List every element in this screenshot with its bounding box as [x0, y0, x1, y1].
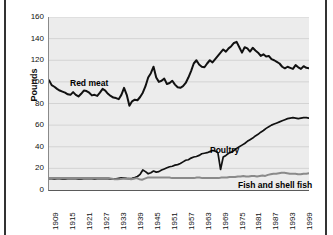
- x-tick-label: 1945: [154, 212, 162, 230]
- page-root: Pounds 020406080100120140160 19091915192…: [0, 0, 333, 235]
- x-tick-label: 1933: [120, 212, 128, 230]
- x-tick-label: 1975: [239, 212, 247, 230]
- y-axis-tick-labels: 020406080100120140160: [14, 4, 44, 194]
- y-tick-label: 80: [18, 100, 44, 108]
- x-tick-label: 1951: [171, 212, 179, 230]
- series-line-fish-and-shell-fish: [49, 173, 309, 180]
- series-line-poultry: [49, 118, 309, 179]
- x-tick-label: 1987: [272, 212, 280, 230]
- plot-svg: [49, 17, 309, 190]
- meat-consumption-line-chart: Pounds 020406080100120140160 19091915192…: [10, 4, 322, 232]
- x-tick-label: 1993: [289, 212, 297, 230]
- y-tick-label: 140: [18, 35, 44, 43]
- y-tick-label: 60: [18, 121, 44, 129]
- x-tick-label: 1939: [137, 212, 145, 230]
- plot-area: [48, 17, 309, 191]
- x-axis-tick-labels: 1909191519211927193319391945195119571963…: [48, 192, 310, 234]
- y-tick-label: 20: [18, 164, 44, 172]
- y-tick-label: 120: [18, 56, 44, 64]
- document-right-rule: [325, 0, 327, 235]
- y-tick-label: 100: [18, 78, 44, 86]
- y-tick-label: 0: [18, 186, 44, 194]
- series-label-fish-and-shell-fish: Fish and shell fish: [238, 180, 312, 190]
- x-tick-label: 1981: [255, 212, 263, 230]
- series-line-red-meat: [49, 42, 309, 106]
- document-left-rule: [4, 0, 6, 235]
- x-tick-label: 1963: [205, 212, 213, 230]
- x-tick-label: 1957: [188, 212, 196, 230]
- y-tick-label: 160: [18, 13, 44, 21]
- x-tick-label: 1927: [103, 212, 111, 230]
- series-label-poultry: Poultry: [210, 145, 239, 155]
- x-tick-label: 1969: [222, 212, 230, 230]
- x-tick-label: 1909: [52, 212, 60, 230]
- x-tick-label: 1921: [86, 212, 94, 230]
- x-tick-label: 1915: [69, 212, 77, 230]
- x-tick-label: 1999: [306, 212, 314, 230]
- y-tick-label: 40: [18, 143, 44, 151]
- series-label-red-meat: Red meat: [70, 78, 108, 88]
